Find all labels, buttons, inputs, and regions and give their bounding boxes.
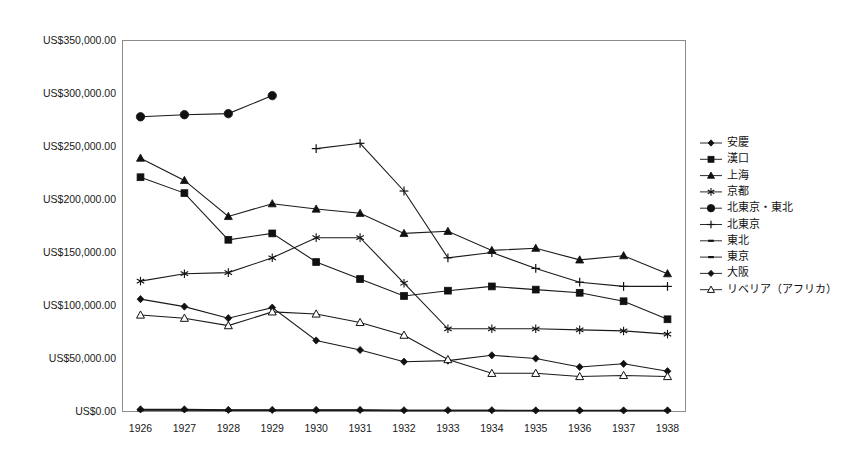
chart-series [312, 139, 672, 291]
y-tick-label: US$0.00 [75, 405, 116, 417]
legend-item[interactable]: 東北 [700, 234, 749, 247]
data-point-marker [313, 337, 320, 344]
series-line [141, 158, 668, 274]
y-tick-label: US$150,000.00 [43, 246, 116, 258]
legend-item[interactable]: 東京 [700, 249, 749, 263]
series-line [316, 143, 667, 286]
y-tick-label: US$350,000.00 [43, 34, 116, 46]
data-point-marker [576, 289, 583, 296]
data-point-marker [225, 236, 232, 243]
x-tick-label: 1932 [392, 422, 416, 434]
data-point-marker [532, 244, 540, 251]
data-point-marker [181, 303, 188, 310]
chart-series [137, 174, 671, 323]
data-point-marker [620, 298, 627, 305]
data-point-marker [181, 190, 188, 197]
data-point-marker [488, 283, 495, 290]
data-point-marker [444, 253, 453, 262]
legend-item[interactable]: 漢口 [700, 152, 749, 165]
plot-area-border [123, 41, 686, 412]
data-point-marker [664, 316, 671, 323]
y-tick-label: US$250,000.00 [43, 140, 116, 152]
data-point-marker [575, 278, 584, 287]
legend-item-label: 北東京 [727, 217, 760, 231]
data-point-marker [180, 111, 188, 119]
chart-series [136, 91, 276, 121]
data-point-marker [444, 355, 452, 362]
x-tick-label: 1928 [217, 422, 241, 434]
data-point-marker [312, 144, 321, 153]
x-tick-label: 1933 [436, 422, 460, 434]
legend-item-label: リベリア（アフリカ） [727, 283, 837, 296]
data-point-marker [137, 154, 145, 161]
x-tick-label: 1934 [480, 422, 504, 434]
chart-series [137, 233, 671, 338]
legend-item-label: 大阪 [727, 265, 749, 279]
chart-container: US$0.00US$50,000.00US$100,000.00US$150,0… [0, 0, 855, 464]
x-tick-label: 1931 [348, 422, 372, 434]
x-tick-label: 1927 [173, 422, 197, 434]
legend-item-label: 東京 [727, 249, 749, 263]
x-tick-label: 1936 [568, 422, 592, 434]
legend-item-label: 東北 [727, 234, 749, 247]
y-tick-label: US$100,000.00 [43, 299, 116, 311]
legend-item-label: 漢口 [727, 152, 749, 165]
data-point-marker [708, 140, 714, 146]
data-point-marker [663, 282, 672, 291]
x-tick-label: 1929 [261, 422, 285, 434]
legend-item[interactable]: 北東京・東北 [700, 200, 793, 214]
data-point-marker [620, 360, 627, 367]
data-point-marker [707, 221, 715, 229]
data-point-marker [620, 252, 628, 259]
data-point-marker [620, 371, 628, 378]
data-point-marker [576, 363, 583, 370]
data-point-marker [268, 91, 276, 99]
data-point-marker [313, 259, 320, 266]
chart-series [137, 410, 670, 411]
data-point-marker [532, 355, 539, 362]
data-point-marker [180, 176, 188, 183]
legend-item[interactable]: 上海 [700, 168, 749, 182]
y-tick-label: US$200,000.00 [43, 193, 116, 205]
data-point-marker [619, 282, 628, 291]
legend-item-label: 京都 [727, 184, 749, 198]
legend-item[interactable]: リベリア（アフリカ） [700, 283, 837, 296]
data-point-marker [708, 270, 714, 276]
data-point-marker [401, 293, 408, 300]
data-point-marker [137, 174, 144, 181]
data-point-marker [357, 276, 364, 283]
data-point-marker [136, 113, 144, 121]
x-tick-label: 1926 [129, 422, 153, 434]
x-axis-tick-labels: 1926192719281929193019311932193319341935… [129, 422, 680, 434]
legend-item[interactable]: 大阪 [700, 265, 749, 279]
data-point-marker [357, 346, 364, 353]
data-point-marker [224, 109, 232, 117]
legend-item-label: 上海 [727, 168, 749, 182]
data-point-marker [137, 311, 145, 318]
series-layer [136, 91, 672, 414]
x-tick-label: 1930 [304, 422, 328, 434]
x-tick-label: 1938 [656, 422, 680, 434]
data-point-marker [268, 200, 276, 207]
data-point-marker [445, 287, 452, 294]
x-tick-label: 1935 [524, 422, 548, 434]
legend-item[interactable]: 安慶 [700, 135, 749, 149]
data-point-marker [532, 286, 539, 293]
legend-item-label: 北東京・東北 [727, 200, 793, 214]
chart-series [137, 154, 672, 277]
series-line [141, 96, 273, 117]
legend-item[interactable]: 北東京 [700, 217, 760, 231]
legend-item[interactable]: 京都 [700, 184, 749, 198]
x-tick-label: 1937 [612, 422, 636, 434]
data-point-marker [269, 230, 276, 237]
y-tick-label: US$300,000.00 [43, 87, 116, 99]
line-chart: US$0.00US$50,000.00US$100,000.00US$150,0… [0, 0, 855, 464]
data-point-marker [708, 156, 714, 162]
data-point-marker [401, 358, 408, 365]
data-point-marker [269, 254, 276, 263]
y-tick-label: US$50,000.00 [49, 352, 116, 364]
data-point-marker [664, 270, 672, 277]
data-point-marker [137, 296, 144, 303]
chart-series [137, 308, 672, 380]
chart-legend: 安慶漢口上海京都北東京・東北北東京東北東京大阪リベリア（アフリカ） [700, 135, 837, 296]
